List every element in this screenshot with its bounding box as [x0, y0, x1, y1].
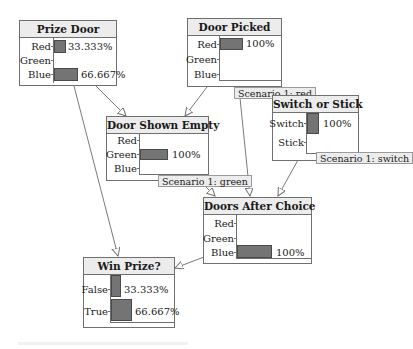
- node-title: Door Shown Empty: [107, 117, 208, 134]
- node-title: Win Prize?: [84, 258, 174, 275]
- probability-bar: [111, 275, 121, 297]
- state-row: Red: [20, 40, 51, 53]
- probability-bar: [54, 68, 78, 81]
- probability-bar: [140, 149, 168, 160]
- node-title: Prize Door: [20, 21, 116, 38]
- probability-value: 100%: [323, 117, 352, 130]
- probability-value: 33.333%: [124, 283, 169, 296]
- node-win-prize[interactable]: Win Prize? False True 33.333% 66.667%: [83, 257, 175, 328]
- edge-shown-to-after: [205, 186, 215, 196]
- probability-bar: [54, 40, 66, 53]
- probability-value: 66.667%: [81, 68, 126, 81]
- state-row: Blue: [20, 68, 51, 81]
- node-door-shown-empty[interactable]: Door Shown Empty Red Green Blue 100%: [106, 116, 209, 181]
- probability-bar: [111, 299, 132, 321]
- edge-after-to-win: [175, 257, 204, 268]
- scenario-label-switch-or-stick: Scenario 1: switch: [316, 152, 413, 164]
- edge-prize-to-shown: [96, 86, 126, 116]
- probability-bar: [307, 113, 319, 134]
- state-row: Green: [20, 54, 51, 67]
- scenario-label-door-shown-empty: Scenario 1: green: [158, 175, 252, 187]
- edge-picked-to-shown: [185, 87, 207, 116]
- probability-bar: [237, 245, 272, 258]
- probability-bar: [220, 38, 243, 50]
- node-door-picked[interactable]: Door Picked Red Green Blue 100%: [187, 18, 282, 87]
- probability-value: 33.333%: [68, 40, 113, 53]
- node-title: Doors After Choice: [204, 198, 311, 215]
- probability-value: 100%: [246, 37, 275, 50]
- probability-value: 100%: [172, 148, 201, 161]
- node-doors-after-choice[interactable]: Doors After Choice Red Green Blue 100%: [203, 197, 312, 264]
- clipped-caption: [18, 342, 188, 345]
- probability-value: 66.667%: [135, 305, 180, 318]
- node-title: Door Picked: [188, 19, 281, 36]
- probability-value: 100%: [276, 246, 305, 259]
- node-prize-door[interactable]: Prize Door Red Green Blue 33.333% 66.667…: [19, 20, 117, 86]
- edge-switch-to-after: [278, 160, 298, 196]
- node-title: Switch or Stick: [273, 96, 358, 113]
